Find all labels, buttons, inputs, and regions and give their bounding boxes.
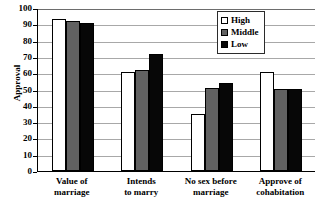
bars-layer [38,9,315,171]
x-axis-labels: Value ofmarriageIntendsto marryNo sex be… [37,176,315,216]
bar-middle-group-1 [66,21,80,171]
bar-group-4 [260,9,302,171]
y-tick-label-70: 70 [2,53,32,62]
white-square-icon [221,17,228,24]
bar-middle-group-2 [135,70,149,171]
bar-high-group-4 [260,72,274,171]
bar-middle-group-4 [274,89,288,171]
bar-middle-group-3 [205,88,219,171]
bar-low-group-2 [149,54,163,171]
x-axis-label-4: Approve ofcohabitation [239,176,323,198]
y-tick-label-40: 40 [2,102,32,111]
y-tick-label-60: 60 [2,69,32,78]
bar-low-group-4 [288,89,302,171]
gray-square-icon [221,29,228,36]
bar-chart: Approval 0102030405060708090100 Value of… [0,0,327,216]
y-tick-label-20: 20 [2,134,32,143]
x-axis-label-line: Approve of [239,176,323,187]
legend-item-low: Low [221,38,261,50]
legend-item-label: High [231,15,250,25]
legend-item-label: Low [231,39,248,49]
legend: HighMiddleLow [217,11,265,54]
legend-item-middle: Middle [221,26,261,38]
legend-item-high: High [221,14,261,26]
y-tick-label-100: 100 [2,4,32,13]
y-tick-label-50: 50 [2,86,32,95]
y-tick-label-10: 10 [2,151,32,160]
bar-high-group-1 [52,19,66,171]
y-tick-label-90: 90 [2,20,32,29]
y-tick-label-0: 0 [2,167,32,176]
bar-high-group-2 [121,72,135,171]
legend-item-label: Middle [231,27,259,37]
y-tick-label-80: 80 [2,37,32,46]
black-square-icon [221,41,228,48]
y-tick-mark-0 [33,172,37,173]
bar-low-group-1 [80,23,94,171]
bar-low-group-3 [219,83,233,171]
y-tick-label-30: 30 [2,118,32,127]
bar-group-2 [121,9,163,171]
bar-group-1 [52,9,94,171]
plot-area [37,9,315,172]
bar-high-group-3 [191,114,205,171]
x-axis-label-line: cohabitation [239,187,323,198]
